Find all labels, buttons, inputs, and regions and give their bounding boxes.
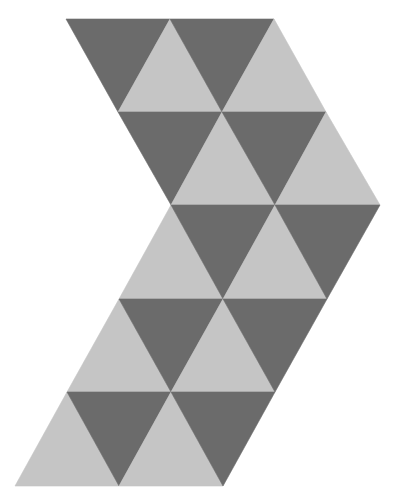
triangle-tiles xyxy=(15,19,380,486)
triangle-row-4 xyxy=(15,392,275,486)
triangle-row-1 xyxy=(118,112,380,205)
triangle-row-2 xyxy=(119,205,380,299)
triangle-row-0 xyxy=(66,19,326,112)
triangle-row-3 xyxy=(67,299,327,392)
triangle-chevron-figure xyxy=(0,0,402,502)
